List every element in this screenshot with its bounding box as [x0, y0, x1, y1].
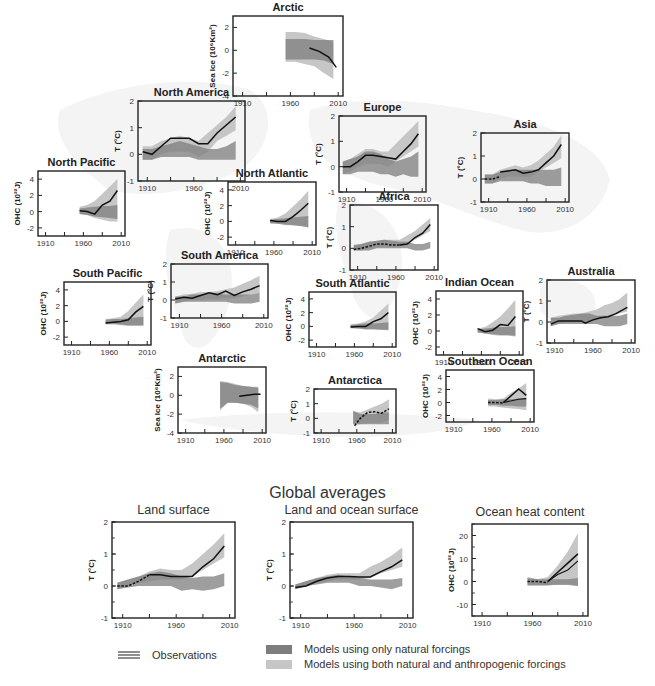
legend-observations-label: Observations [152, 649, 217, 661]
y-tick-label: 1 [104, 550, 109, 559]
y-tick-label: -2 [217, 233, 225, 242]
y-tick-label: 1 [342, 223, 347, 232]
y-axis-label: OHC (10²²J) [421, 374, 430, 418]
y-axis-label: T (°C) [87, 559, 96, 581]
y-tick-label: -2 [425, 343, 433, 352]
x-tick-label: 1910 [546, 346, 564, 355]
panel-australia: 191019602010210-1T (°C)Australia [513, 262, 641, 363]
y-tick-label: 10 [459, 555, 468, 564]
x-tick-label: 2010 [255, 321, 273, 330]
panel-land-surface: 191019602010210-1T (°C)Land surface [78, 504, 241, 638]
plot-frame [350, 205, 438, 270]
legend-natural-label: Models using only natural forcings [304, 643, 470, 655]
y-axis-label: T (°C) [522, 300, 531, 322]
y-tick-label: 2 [473, 129, 478, 138]
panel-ocean-heat-content: 19101960201020100-10OHC (10²²J)Ocean hea… [438, 506, 594, 636]
x-tick-label: 1910 [473, 619, 491, 628]
y-tick-label: -2 [27, 224, 35, 233]
panel-title: South Pacific [73, 267, 143, 279]
x-tick-label: 1910 [37, 239, 55, 248]
y-tick-label: 0 [220, 217, 225, 226]
y-axis-label: OHC (10²²J) [13, 181, 22, 225]
y-tick-label: 2 [306, 385, 311, 394]
y-axis-label: T (°C) [325, 226, 334, 248]
y-tick-label: -1 [303, 429, 311, 438]
y-tick-label: 0 [539, 318, 544, 327]
y-tick-label: 2 [104, 518, 109, 527]
y-tick-label: 1 [331, 137, 336, 146]
x-tick-label: 2010 [521, 425, 539, 434]
band-natural-forcings [354, 240, 431, 251]
y-axis-label: OHC (10²²J) [447, 548, 456, 592]
x-tick-label: 1960 [74, 239, 92, 248]
x-tick-label: 1960 [584, 346, 602, 355]
y-axis-label: T (°C) [289, 400, 298, 422]
x-tick-label: 1910 [138, 184, 156, 193]
y-axis-label: T (°C) [265, 559, 274, 581]
x-tick-label: 2010 [399, 621, 417, 630]
y-tick-label: 4 [56, 286, 61, 295]
x-tick-label: 1910 [480, 205, 498, 214]
panel-title: North Pacific [48, 156, 116, 168]
y-tick-label: 0 [342, 244, 347, 253]
natural-forcing-swatch [266, 645, 292, 654]
y-tick-label: -1 [536, 339, 544, 348]
y-tick-label: 0 [225, 46, 230, 55]
y-tick-label: 1 [473, 152, 478, 161]
y-tick-label: 4 [438, 373, 443, 382]
y-tick-label: 0 [301, 322, 306, 331]
y-axis-label: OHC (10²²J) [39, 291, 48, 335]
y-axis-label: T (°C) [314, 143, 323, 165]
x-tick-label: 1960 [524, 619, 542, 628]
legend-both-label: Models using both natural and anthropoge… [304, 658, 566, 670]
y-tick-label: -2 [222, 69, 230, 78]
y-tick-label: 0 [170, 391, 175, 400]
y-axis-label: T (°C) [146, 280, 155, 302]
y-tick-label: -1 [160, 314, 168, 323]
y-tick-label: 1 [306, 400, 311, 409]
y-axis-label: Sea Ice (10⁶Km²) [208, 24, 217, 88]
panel-title: Africa [378, 190, 410, 202]
panel-title: Australia [567, 265, 615, 277]
legend-both: Models using both natural and anthropoge… [266, 658, 566, 670]
y-tick-label: 0 [331, 163, 336, 172]
y-tick-label: 0 [56, 317, 61, 326]
y-tick-label: 2 [163, 260, 168, 269]
x-tick-label: 1910 [308, 350, 326, 359]
panel-title: Ocean heat content [475, 505, 585, 519]
panel-title: Indian Ocean [445, 276, 514, 288]
band-natural-forcings [485, 168, 562, 186]
x-tick-label: 1910 [445, 425, 463, 434]
y-tick-label: 4 [301, 295, 306, 304]
y-tick-label: 2 [30, 191, 35, 200]
legend-observations: Observations [118, 649, 217, 661]
observations-line-icon [118, 650, 140, 660]
x-tick-label: 1960 [215, 436, 233, 445]
y-tick-label: 0 [473, 175, 478, 184]
x-tick-label: 2010 [384, 436, 402, 445]
y-tick-label: 2 [539, 276, 544, 285]
y-axis-label: T (°C) [113, 130, 122, 152]
x-tick-label: 1960 [348, 436, 366, 445]
x-tick-label: 2010 [221, 621, 239, 630]
y-axis-label: OHC (10²²J) [284, 297, 293, 341]
panel-title: Antarctica [328, 374, 383, 386]
panel-title: Asia [513, 118, 537, 130]
x-tick-label: 1960 [100, 348, 118, 357]
band-natural-forcings [117, 572, 224, 591]
y-tick-label: 2 [342, 201, 347, 210]
y-tick-label: -2 [298, 336, 306, 345]
y-tick-label: 2 [56, 302, 61, 311]
y-tick-label: 2 [282, 518, 287, 527]
panel-title: Land and ocean surface [284, 503, 418, 517]
y-tick-label: 0 [464, 578, 469, 587]
y-tick-label: 1 [539, 297, 544, 306]
y-tick-label: -4 [167, 429, 175, 438]
x-tick-label: 1910 [63, 348, 81, 357]
y-tick-label: 4 [220, 186, 225, 195]
y-tick-label: 1 [163, 278, 168, 287]
x-tick-label: 1910 [312, 436, 330, 445]
y-tick-label: 2 [428, 311, 433, 320]
y-axis-label: T (°C) [456, 156, 465, 178]
y-tick-label: 2 [225, 23, 230, 32]
